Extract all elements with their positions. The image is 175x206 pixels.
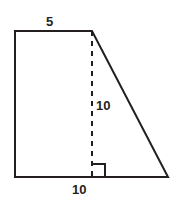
trapezoid-diagram	[0, 0, 175, 206]
base-length-label: 10	[72, 183, 86, 196]
height-length-label: 10	[96, 99, 110, 112]
top-side-length-label: 5	[46, 15, 53, 28]
